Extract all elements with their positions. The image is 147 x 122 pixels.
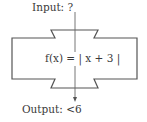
input-value: ?	[68, 1, 74, 13]
function-formula: f(x) = | x + 3 |	[44, 52, 121, 64]
input-label-text: Input:	[32, 1, 64, 13]
output-label: Output: <6	[22, 103, 82, 115]
output-label-text: Output:	[22, 103, 63, 115]
output-value: <6	[66, 103, 81, 115]
arrow-down-icon	[73, 97, 77, 102]
input-label: Input: ?	[32, 1, 73, 13]
